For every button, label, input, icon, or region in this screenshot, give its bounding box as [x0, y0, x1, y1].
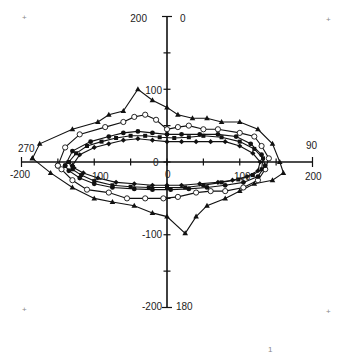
center-label-0: 0: [153, 157, 159, 168]
data-point-marker: [55, 163, 60, 168]
data-point-marker: [95, 119, 101, 124]
data-point-marker: [136, 129, 141, 134]
data-point-marker: [256, 174, 261, 179]
data-point-marker: [143, 134, 147, 138]
data-point-marker: [106, 134, 111, 139]
angle-label-bottom: 180: [176, 301, 193, 312]
data-point-marker: [121, 119, 126, 124]
data-point-marker: [238, 140, 242, 144]
data-point-marker: [223, 189, 228, 194]
data-point-marker: [266, 156, 271, 161]
data-point-marker: [70, 167, 74, 171]
polar-loop-chart: + + + + 1 200 0 100 -100 -200 180 270 -2…: [0, 0, 342, 359]
data-point-marker: [143, 112, 148, 117]
center-label-100: 100: [234, 171, 251, 182]
data-point-marker: [129, 134, 133, 138]
data-point-marker: [88, 139, 93, 144]
data-point-marker: [124, 196, 129, 201]
data-point-marker: [172, 136, 176, 140]
data-point-marker: [135, 86, 141, 91]
data-point-marker: [237, 143, 242, 148]
data-point-marker: [220, 180, 224, 184]
center-label-neg100: 100: [92, 171, 109, 182]
data-point-marker: [208, 189, 213, 194]
y-tick-label-100: 100: [145, 85, 162, 96]
axes: [22, 17, 313, 308]
data-point-marker: [252, 134, 257, 139]
data-point-marker: [106, 190, 111, 195]
data-point-marker: [179, 132, 184, 137]
data-point-marker: [175, 124, 180, 129]
data-point-marker: [150, 97, 156, 102]
data-point-marker: [183, 185, 187, 189]
data-point-marker: [63, 145, 68, 150]
data-point-marker: [215, 127, 220, 132]
data-point-marker: [150, 138, 155, 143]
angle-label-right: 90: [306, 140, 318, 151]
data-point-marker: [74, 151, 78, 155]
data-point-marker: [84, 187, 89, 192]
data-point-marker: [79, 173, 83, 177]
data-point-marker: [237, 130, 242, 135]
center-label-0b: 0: [165, 169, 171, 180]
data-point-marker: [121, 131, 126, 136]
data-point-marker: [261, 156, 265, 160]
data-point-marker: [187, 135, 191, 139]
data-point-marker: [179, 139, 184, 144]
data-point-marker: [129, 185, 133, 189]
data-point-marker: [186, 123, 191, 128]
data-point-marker: [251, 173, 255, 177]
data-point-marker: [143, 196, 148, 201]
data-point-marker: [121, 138, 126, 143]
data-point-marker: [30, 155, 36, 160]
y-tick-label-neg100: -100: [142, 229, 162, 240]
data-point-marker: [70, 178, 75, 183]
angle-label-top: 0: [180, 13, 186, 24]
data-point-marker: [150, 131, 155, 136]
corner-mark-top-left: +: [22, 13, 27, 22]
angle-label-left: 270: [18, 143, 35, 154]
data-point-marker: [175, 194, 180, 199]
data-point-marker: [194, 190, 199, 195]
page-number: 1: [268, 345, 273, 354]
data-point-marker: [135, 136, 140, 141]
data-point-marker: [67, 160, 71, 164]
data-point-marker: [260, 167, 264, 171]
data-point-marker: [165, 185, 169, 189]
data-point-marker: [165, 132, 170, 137]
data-point-marker: [252, 147, 256, 151]
data-point-marker: [132, 114, 137, 119]
data-point-marker: [158, 135, 162, 139]
data-point-marker: [92, 145, 97, 150]
data-point-marker: [241, 185, 246, 190]
data-point-marker: [208, 139, 213, 144]
data-point-marker: [70, 184, 76, 189]
data-point-marker: [110, 183, 114, 187]
data-point-marker: [147, 185, 151, 189]
data-point-marker: [100, 140, 104, 144]
data-point-marker: [175, 112, 181, 117]
data-point-marker: [259, 143, 264, 148]
data-point-marker: [201, 134, 205, 138]
data-point-marker: [220, 135, 224, 139]
corner-mark-bottom-right: +: [326, 307, 331, 316]
data-point-marker: [201, 127, 206, 132]
data-point-marker: [85, 144, 89, 148]
y-tick-label-neg200: -200: [142, 301, 162, 312]
data-point-marker: [106, 141, 111, 146]
data-point-marker: [164, 139, 169, 144]
data-point-marker: [153, 117, 158, 122]
x-tick-label-200: 200: [305, 171, 322, 182]
data-point-marker: [248, 141, 253, 146]
data-point-marker: [194, 139, 199, 144]
data-point-marker: [164, 127, 169, 132]
corner-mark-top-right: +: [326, 15, 331, 24]
x-tick-label-neg200: -200: [10, 169, 30, 180]
data-point-marker: [77, 132, 82, 137]
data-point-marker: [270, 177, 276, 182]
data-point-marker: [114, 136, 118, 140]
data-point-marker: [223, 139, 228, 144]
data-point-marker: [281, 170, 287, 175]
data-point-marker: [201, 183, 205, 187]
corner-mark-bottom-left: +: [22, 305, 27, 314]
